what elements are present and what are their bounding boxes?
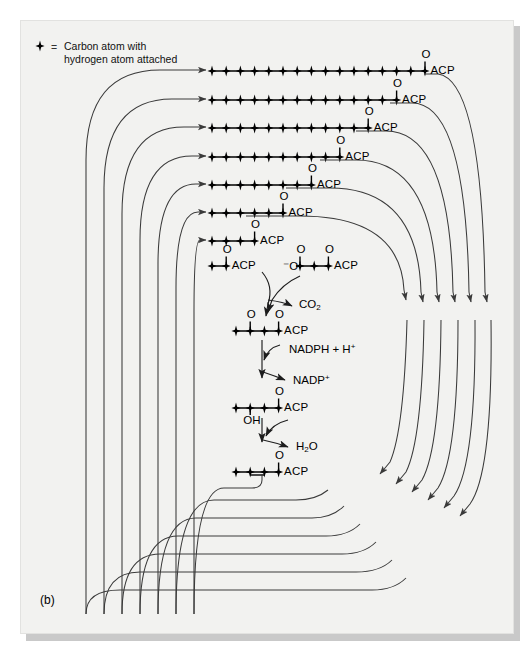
acp-label-decanoyl-ACP: ACP (345, 150, 369, 162)
carbon-atom-marker (250, 66, 259, 77)
carbon-atom-marker (231, 403, 240, 414)
oxygen2-label-malonyl-ACP: O (297, 243, 306, 255)
carbon-atom-marker (349, 95, 358, 106)
oxygen-label-acetyl-ACP: O (223, 243, 232, 255)
acyl-chain-beta-hydroxybutyryl-ACP (231, 399, 283, 416)
carbon-atom-marker (349, 66, 358, 77)
carbon-atom-marker (335, 95, 344, 106)
nadp-label: NADP+ (293, 373, 330, 386)
carbon-atom-marker (236, 180, 245, 191)
carbon-atom-marker (278, 180, 287, 191)
carbon-atom-marker (236, 152, 245, 163)
carbon-atom-marker (222, 123, 231, 134)
legend-carbon-marker-icon (35, 41, 44, 52)
carbon-atom-marker (406, 66, 415, 77)
carbon-atom-marker (335, 123, 344, 134)
carbon-atom-marker (246, 467, 255, 478)
bottom-return-loops (86, 474, 406, 614)
carbon-atom-marker (231, 326, 240, 337)
carbon-atom-marker (378, 66, 387, 77)
acyl-chain-crotonyl-ACP (231, 463, 283, 478)
carbon-atom-marker (307, 95, 316, 106)
carbon-atom-marker (222, 180, 231, 191)
nadp-text: NADP (293, 374, 325, 386)
acp-label-palmitoyl-ACP: ACP (431, 64, 455, 76)
acp-label-acetoacetyl-ACP: ACP (284, 324, 308, 336)
carbon-atom-marker (236, 66, 245, 77)
diagram-canvas (0, 0, 530, 651)
carbon-atom-marker (207, 152, 216, 163)
legend-equals-sign: = (51, 41, 57, 53)
carbon-atom-marker (236, 208, 245, 219)
acyl-chain-butyryl-ACP-top (207, 232, 259, 247)
carbon-atom-marker (222, 66, 231, 77)
carbon-atom-marker (293, 123, 302, 134)
carbon-atom-marker (207, 180, 216, 191)
carbon-atom-marker (250, 208, 259, 219)
oxygen-label-myristoyl-ACP: O (393, 77, 402, 89)
acp-label-hexanoyl-ACP: ACP (289, 206, 313, 218)
oxygen-label-malonyl-ACP: O (325, 243, 334, 255)
acyl-chain-myristoyl-ACP (207, 91, 401, 106)
carbon-atom-marker (222, 95, 231, 106)
legend-line-1: Carbon atom with (64, 40, 146, 53)
carbon-atom-marker (321, 95, 330, 106)
carbon-atom-marker (207, 208, 216, 219)
carbon-atom-marker (278, 66, 287, 77)
figure-page: Carbon atom with hydrogen atom attached … (0, 0, 530, 651)
carbon-atom-marker (222, 208, 231, 219)
carbon-atom-marker (278, 152, 287, 163)
acp-label-myristoyl-ACP: ACP (402, 93, 426, 105)
acyl-chain-malonyl-ACP (295, 257, 333, 272)
carbon-atom-marker (293, 180, 302, 191)
oxygen-label-lauroyl-ACP: O (365, 105, 374, 117)
carbon-atom-marker (335, 66, 344, 77)
carbon-atom-marker (250, 123, 259, 134)
left-recycle-arrows (86, 70, 206, 614)
oxygen-label-hexanoyl-ACP: O (280, 190, 289, 202)
carbon-atom-marker (250, 95, 259, 106)
acp-label-crotonyl-ACP: ACP (284, 465, 308, 477)
carbon-atom-marker (392, 66, 401, 77)
nadph-text: NADPH + H (289, 343, 351, 355)
carbon-atom-marker (260, 467, 269, 478)
oxygen2-label-acetoacetyl-ACP: O (247, 308, 256, 320)
carbon-atom-marker (293, 95, 302, 106)
leading-oxygen-malonyl-ACP: ⁻O (283, 259, 298, 273)
hydroxyl-label-beta-hydroxybutyryl-ACP: OH (243, 414, 261, 426)
carbon-atom-marker (264, 208, 273, 219)
carbon-atom-marker (307, 123, 316, 134)
carbon-atom-marker (264, 66, 273, 77)
co2-subscript: 2 (316, 303, 320, 312)
carbon-atom-marker (222, 152, 231, 163)
acyl-chain-acetyl-ACP (207, 257, 230, 272)
nadph-superscript: + (351, 342, 356, 351)
acp-label-butyryl-ACP-top: ACP (260, 234, 284, 246)
carbon-atom-marker (231, 467, 240, 478)
carbon-atom-marker (307, 66, 316, 77)
nadp-superscript: + (325, 373, 330, 382)
oxygen-label-crotonyl-ACP: O (275, 449, 284, 461)
oxygen-label-beta-hydroxybutyryl-ACP: O (275, 385, 284, 397)
acp-label-acetyl-ACP: ACP (232, 259, 256, 271)
co2-label: CO2 (299, 298, 321, 312)
carbon-atom-marker (207, 66, 216, 77)
carbon-atom-marker (207, 236, 216, 247)
carbon-atom-marker (207, 95, 216, 106)
carbon-atom-marker (250, 152, 259, 163)
nadph-label: NADPH + H+ (289, 342, 355, 355)
oxygen-label-decanoyl-ACP: O (336, 134, 345, 146)
carbon-atom-marker (321, 123, 330, 134)
acyl-chain-acetoacetyl-ACP (231, 322, 283, 337)
legend-marker-icon (35, 41, 44, 52)
carbon-atom-marker (236, 123, 245, 134)
carbon-atom-marker (321, 66, 330, 77)
co2-text: CO (299, 298, 316, 310)
water-o: O (309, 440, 318, 452)
carbon-atom-marker (364, 95, 373, 106)
acyl-chain-palmitoyl-ACP (207, 62, 429, 77)
right-descending-arrows (380, 320, 491, 516)
acp-label-octanoyl-ACP: ACP (317, 178, 341, 190)
carbon-atom-marker (260, 403, 269, 414)
carbon-atom-marker (378, 95, 387, 106)
